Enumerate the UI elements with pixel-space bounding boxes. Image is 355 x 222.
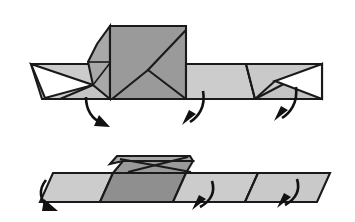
origami-diagram: Origami folding step diagram Two-step pa… bbox=[0, 0, 355, 222]
right-band-segment bbox=[186, 64, 255, 99]
origami-illustration: Origami folding step diagram Two-step pa… bbox=[0, 0, 355, 222]
center-raised-square bbox=[110, 26, 186, 99]
right-parallelogram-panel bbox=[173, 173, 258, 202]
center-dark-panel bbox=[100, 173, 186, 202]
